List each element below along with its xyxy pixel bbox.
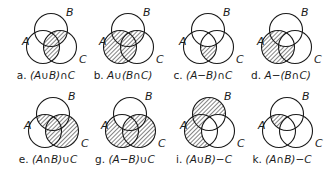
caption-expression: A−(B∩C) (264, 69, 310, 81)
label-a-set: A (101, 120, 109, 131)
caption-letter: b. (94, 69, 104, 81)
caption-letter: c. (174, 69, 183, 81)
label-c-set: C (314, 54, 322, 65)
label-a-set: A (258, 120, 266, 131)
venn-diagram-g: A B C g. (A−B)∪C (85, 84, 165, 168)
caption: c. (A−B)∩C (163, 70, 243, 81)
caption-expression: (A∩B)−C (265, 153, 311, 165)
caption: g. (A−B)∪C (85, 154, 165, 165)
caption: d. A−(B∩C) (241, 70, 321, 81)
caption-expression: (A∪B)∩C (30, 69, 75, 81)
label-b-set: B (68, 91, 76, 102)
caption-letter: g. (95, 153, 105, 165)
label-a-set: A (180, 120, 188, 131)
label-a-set: A (179, 36, 187, 47)
venn-diagram-i: A B C i. (A∪B)−C (164, 84, 244, 168)
venn-diagram-k: A B C k. (A∩B)−C (242, 84, 322, 168)
label-b-set: B (301, 7, 309, 18)
caption: b. A∪(B∩C) (83, 70, 163, 81)
label-a-set: A (99, 36, 107, 47)
label-b-set: B (302, 91, 310, 102)
label-b-set: B (223, 7, 231, 18)
label-b-set: B (143, 7, 151, 18)
caption: k. (A∩B)−C (242, 154, 322, 165)
label-a-set: A (257, 36, 265, 47)
caption: e. (A∩B)∪C (8, 154, 88, 165)
venn-diagram-c: A B C c. (A−B)∩C (163, 0, 243, 84)
label-b-set: B (224, 91, 232, 102)
label-b-set: B (145, 91, 153, 102)
caption-letter: d. (251, 69, 261, 81)
venn-diagram-d: A B C d. A−(B∩C) (241, 0, 321, 84)
venn-diagram-b: A B C b. A∪(B∩C) (83, 0, 163, 84)
label-a-set: A (22, 36, 30, 47)
label-b-set: B (66, 7, 74, 18)
caption-letter: e. (19, 153, 29, 165)
caption-letter: a. (17, 69, 27, 81)
caption-expression: (A−B)∪C (108, 153, 154, 165)
caption: a. (A∪B)∩C (6, 70, 86, 81)
venn-diagram-figure: A B C a. (A∪B)∩C A B C b. A∪(B∩C) A B C … (0, 0, 333, 169)
venn-diagram-e: A B C e. (A∩B)∪C (8, 84, 88, 168)
caption-letter: k. (252, 153, 261, 165)
caption-expression: (A−B)∩C (186, 69, 232, 81)
label-a-set: A (24, 120, 32, 131)
caption-letter: i. (176, 153, 182, 165)
caption-expression: (A∩B)∪C (32, 153, 77, 165)
label-c-set: C (315, 138, 323, 149)
caption-expression: (A∪B)−C (186, 153, 232, 165)
venn-diagram-a: A B C a. (A∪B)∩C (6, 0, 86, 84)
caption-expression: A∪(B∩C) (107, 69, 152, 81)
caption: i. (A∪B)−C (164, 154, 244, 165)
